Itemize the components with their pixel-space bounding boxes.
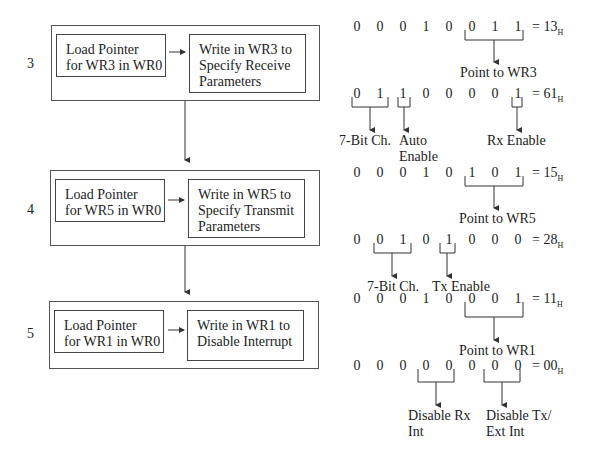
bit-label: Ext Int [486, 424, 525, 440]
bit-value: 0 [374, 358, 386, 374]
bit-value: 0 [351, 358, 363, 374]
bit-label: Point to WR5 [459, 211, 536, 227]
bit-value: 1 [489, 19, 501, 35]
hex-suffix: H [557, 300, 563, 309]
bit-value: 0 [351, 19, 363, 35]
load-pointer-box: Load Pointer for WR5 in WR0 [55, 179, 165, 222]
hex-result: = 28H [532, 232, 563, 250]
hex-value: = 00 [532, 358, 557, 373]
bit-value: 0 [397, 165, 409, 181]
bit-value: 0 [420, 358, 432, 374]
bit-value: 0 [443, 86, 455, 102]
bit-value: 1 [512, 19, 524, 35]
box-line: Specify Receive [199, 58, 305, 74]
bit-label: Disable Tx/ [486, 408, 551, 424]
box-line: Load Pointer [66, 42, 165, 58]
bit-label: Tx Enable [432, 279, 490, 295]
bit-label: Rx Enable [487, 133, 546, 149]
bit-value: 1 [512, 86, 524, 102]
box-line: Write in WR3 to [199, 42, 305, 58]
bit-label: Point to WR1 [459, 343, 536, 359]
box-line: Write in WR1 to [197, 318, 303, 334]
bit-value: 1 [374, 86, 386, 102]
write-register-box: Write in WR3 to Specify Receive Paramete… [189, 34, 306, 93]
hex-value: = 15 [532, 165, 557, 180]
hex-result: = 15H [532, 165, 563, 183]
hex-value: = 28 [532, 232, 557, 247]
bit-value: 0 [374, 232, 386, 248]
bit-value: 0 [420, 232, 432, 248]
hex-suffix: H [557, 95, 563, 104]
box-line: Load Pointer [65, 187, 164, 203]
step-number: 4 [27, 202, 34, 218]
write-register-box: Write in WR1 to Disable Interrupt [187, 310, 304, 361]
bit-value: 1 [466, 165, 478, 181]
bit-label: 7-Bit Ch. [339, 133, 391, 149]
box-line: Specify Transmit [198, 203, 304, 219]
bit-value: 0 [512, 358, 524, 374]
hex-value: = 61 [532, 86, 557, 101]
bit-value: 1 [397, 232, 409, 248]
hex-result: = 11H [532, 291, 563, 309]
bit-value: 1 [397, 86, 409, 102]
hex-value: = 13 [532, 19, 557, 34]
bit-value: 0 [466, 19, 478, 35]
write-register-box: Write in WR5 to Specify Transmit Paramet… [188, 179, 305, 238]
box-line: for WR1 in WR0 [64, 334, 163, 350]
bit-value: 0 [466, 86, 478, 102]
bit-label: Point to WR3 [460, 65, 537, 81]
bit-value: 1 [420, 19, 432, 35]
step-number: 5 [27, 326, 34, 342]
bit-value: 0 [489, 232, 501, 248]
bit-value: 1 [420, 291, 432, 307]
hex-suffix: H [557, 241, 563, 250]
load-pointer-box: Load Pointer for WR3 in WR0 [56, 34, 166, 77]
bit-value: 0 [351, 232, 363, 248]
bit-label: Auto [399, 133, 427, 149]
box-line: Disable Interrupt [197, 334, 303, 350]
bit-value: 0 [420, 86, 432, 102]
bit-value: 0 [489, 291, 501, 307]
hex-suffix: H [557, 174, 563, 183]
bit-value: 0 [351, 86, 363, 102]
hex-suffix: H [557, 367, 563, 376]
bit-value: 1 [443, 232, 455, 248]
bit-value: 1 [512, 291, 524, 307]
bit-value: 0 [489, 165, 501, 181]
box-line: for WR5 in WR0 [65, 203, 164, 219]
bit-value: 0 [397, 358, 409, 374]
box-line: for WR3 in WR0 [66, 58, 165, 74]
bit-value: 0 [397, 19, 409, 35]
hex-suffix: H [557, 28, 563, 37]
box-line: Parameters [199, 74, 305, 90]
bit-value: 1 [420, 165, 432, 181]
bit-value: 0 [489, 358, 501, 374]
box-line: Parameters [198, 219, 304, 235]
bit-label: 7-Bit Ch. [367, 279, 419, 295]
bit-value: 0 [351, 291, 363, 307]
bit-value: 0 [466, 358, 478, 374]
bit-value: 0 [351, 165, 363, 181]
bit-label: Disable Rx [408, 408, 471, 424]
hex-result: = 13H [532, 19, 563, 37]
bit-value: 0 [466, 232, 478, 248]
bit-value: 0 [443, 19, 455, 35]
bit-value: 0 [443, 358, 455, 374]
bit-value: 0 [489, 86, 501, 102]
bit-value: 0 [443, 165, 455, 181]
box-line: Write in WR5 to [198, 187, 304, 203]
bit-value: 0 [512, 232, 524, 248]
box-line: Load Pointer [64, 318, 163, 334]
bit-value: 0 [374, 165, 386, 181]
hex-result: = 61H [532, 86, 563, 104]
bit-label: Int [408, 424, 424, 440]
step-number: 3 [27, 56, 34, 72]
bit-value: 1 [512, 165, 524, 181]
hex-result: = 00H [532, 358, 563, 376]
load-pointer-box: Load Pointer for WR1 in WR0 [54, 310, 164, 353]
bit-label: Enable [399, 149, 438, 165]
hex-value: = 11 [532, 291, 557, 306]
bit-value: 0 [374, 19, 386, 35]
